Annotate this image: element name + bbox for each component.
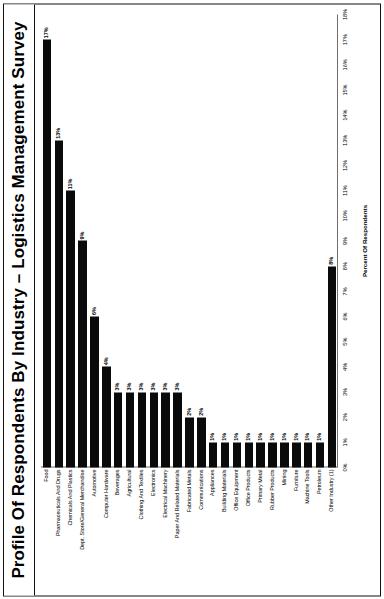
bar-row: Clothing And Textiles3% (136, 14, 148, 595)
bar-cell: 1% (302, 14, 314, 467)
bar-cell: 8% (326, 14, 338, 467)
bar (114, 392, 123, 467)
bar-value-label: 1% (282, 433, 287, 441)
bar-value-label: 2% (199, 407, 204, 415)
bar-cell: 2% (195, 14, 207, 467)
bar-row: Electrical Machinery3% (160, 14, 172, 595)
bar-category-label: Office Products (246, 467, 251, 595)
bar-category-label: Appliances (210, 467, 215, 595)
bar (43, 39, 52, 467)
bar-row: Automotive6% (89, 14, 101, 595)
bar-cell: 3% (124, 14, 136, 467)
bar (161, 392, 170, 467)
bar (256, 442, 265, 467)
bar (304, 442, 313, 467)
bar-category-label: Electronics (151, 467, 156, 595)
bar-category-label: Agricultural (127, 467, 132, 595)
bar (245, 442, 254, 467)
bar (221, 442, 230, 467)
bar-category-label: Electrical Machinery (163, 467, 168, 595)
bar-category-label: Fabricated Metals (187, 467, 192, 595)
bar-cell: 11% (65, 14, 77, 467)
bar-cell: 1% (231, 14, 243, 467)
bar-cell: 1% (219, 14, 231, 467)
bar-value-label: 13% (56, 128, 61, 139)
bar (316, 442, 325, 467)
bar-cell: 1% (255, 14, 267, 467)
bar-value-label: 4% (104, 357, 109, 365)
bar-value-label: 2% (187, 407, 192, 415)
bar-value-label: 3% (127, 382, 132, 390)
axis-tick: 14% (342, 109, 348, 120)
bar-value-label: 6% (92, 307, 97, 315)
bar-row: Office Products1% (243, 14, 255, 595)
bar-value-label: 11% (68, 178, 73, 189)
bar (197, 417, 206, 467)
bar-row: Pharmaceuticals And Drugs13% (53, 14, 65, 595)
bar-category-label: Furniture (294, 467, 299, 595)
bar (268, 442, 277, 467)
axis-tick: 7% (342, 287, 348, 295)
bar-row: Dept. Store/General Merchandise9% (77, 14, 89, 595)
bar-cell: 1% (207, 14, 219, 467)
bar-value-label: 1% (317, 433, 322, 441)
bar-row: Mining1% (279, 14, 291, 595)
bar (138, 392, 147, 467)
bar-row: Furniture1% (290, 14, 302, 595)
bar-value-label: 3% (139, 382, 144, 390)
bar-row: Primary Metal1% (255, 14, 267, 595)
bar-row: Petroleum1% (314, 14, 326, 595)
bar-value-label: 17% (44, 27, 49, 38)
bar-cell: 3% (148, 14, 160, 467)
bar-value-label: 1% (222, 433, 227, 441)
bar-value-label: 3% (163, 382, 168, 390)
bar-category-label: Food (44, 467, 49, 595)
bar-value-label: 1% (305, 433, 310, 441)
axis-tick: 18% (342, 8, 348, 19)
axis-tick: 3% (342, 387, 348, 395)
bar (66, 190, 75, 467)
bar-cell: 3% (160, 14, 172, 467)
bar-value-label: 9% (80, 231, 85, 239)
bar-category-label: Clothing And Textiles (139, 467, 144, 595)
bar-cell: 1% (243, 14, 255, 467)
bar-value-label: 1% (270, 433, 275, 441)
bar-cell: 9% (77, 14, 89, 467)
bar-category-label: Dept. Store/General Merchandise (80, 467, 85, 595)
bar-category-label: Rubber Products (270, 467, 275, 595)
bar (328, 266, 337, 467)
bar-category-label: Building Materials (222, 467, 227, 595)
axis-tick: 0% (342, 463, 348, 471)
axis-tick: 1% (342, 438, 348, 446)
bar-cell: 1% (290, 14, 302, 467)
plot-area: Food17%Pharmaceuticals And Drugs13%Chemi… (35, 4, 380, 595)
bar-row: Building Materials1% (219, 14, 231, 595)
bar-row: Office Equipment1% (231, 14, 243, 595)
bar (185, 417, 194, 467)
bar-cell: 4% (100, 14, 112, 467)
bar-row: Food17% (41, 14, 53, 595)
bar-cell: 3% (136, 14, 148, 467)
bar (78, 241, 87, 468)
bar-category-label: Primary Metal (258, 467, 263, 595)
bar-row: Other Industry (1)8% (326, 14, 338, 595)
axis-tick: 12% (342, 159, 348, 170)
axis-tick: 13% (342, 134, 348, 145)
bar-category-label: Pharmaceuticals And Drugs (56, 467, 61, 595)
bar-value-label: 3% (115, 382, 120, 390)
axis-tick: 6% (342, 312, 348, 320)
bar (102, 366, 111, 467)
bar-row: Beverages3% (112, 14, 124, 595)
bar-category-label: Other Industry (1) (329, 467, 334, 595)
bar (55, 140, 64, 467)
bar-cell: 1% (279, 14, 291, 467)
axis-tick: 17% (342, 34, 348, 45)
axis-tick: 11% (342, 185, 348, 196)
bar-value-label: 1% (294, 433, 299, 441)
bar-cell: 17% (41, 14, 53, 467)
chart-title-bar: Profile Of Respondents By Industry – Log… (4, 4, 35, 595)
axis-tick: 8% (342, 262, 348, 270)
axis-tick: 5% (342, 337, 348, 345)
bar (233, 442, 242, 467)
bar-cell: 3% (112, 14, 124, 467)
